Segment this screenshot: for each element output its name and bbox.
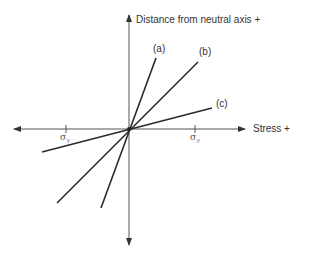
line-c — [42, 108, 212, 152]
y-axis-label: Distance from neutral axis + — [136, 15, 260, 25]
line-a-label: (a) — [153, 44, 165, 54]
line-c-label: (c) — [216, 99, 228, 109]
sigma-subscript: Y — [66, 138, 70, 144]
origin-point — [127, 127, 131, 131]
yield-stress-label-negative: σY — [60, 133, 70, 144]
x-axis-label: Stress + — [253, 124, 290, 134]
yield-stress-label-positive: σY — [190, 133, 200, 144]
sigma-subscript: Y — [196, 138, 200, 144]
line-b — [57, 62, 198, 203]
line-b-label: (b) — [199, 47, 211, 57]
